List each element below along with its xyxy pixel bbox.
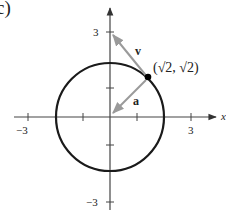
y-axis: 3 −3 (86, 8, 114, 210)
y-tick-label-3: 3 (93, 26, 99, 38)
part-label: c) (0, 0, 11, 19)
x-axis: −3 3 x (14, 110, 226, 136)
vector-v-label: v (135, 44, 141, 58)
x-tick-label-neg3: −3 (16, 124, 28, 136)
x-tick-label-3: 3 (188, 124, 194, 136)
x-axis-label: x (220, 110, 226, 122)
vector-a (113, 80, 146, 113)
vector-a-label: a (133, 94, 139, 108)
point-sqrt2-sqrt2 (145, 74, 152, 81)
vector-v (113, 35, 148, 78)
diagram-canvas: c) −3 3 x 3 −3 v a (√2, √2) (0, 0, 226, 212)
y-tick-label-neg3: −3 (86, 196, 98, 208)
point-label: (√2, √2) (153, 60, 199, 76)
